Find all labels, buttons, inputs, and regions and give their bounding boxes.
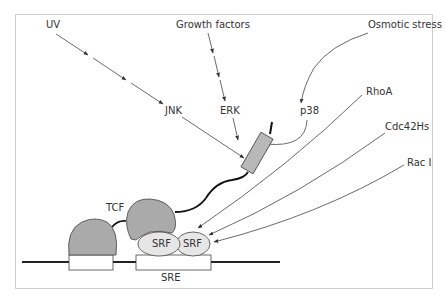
erk-to-box-arrow [233,118,238,140]
tcf-tether [175,172,248,212]
activation-domain-box [241,132,273,174]
box-top-line [270,122,272,134]
cdc42hs-to-srf-arrow [209,133,385,235]
label-srf-1: SRF [152,238,171,250]
uv-to-jnk-arrow [56,34,163,104]
label-sre: SRE [161,272,181,284]
label-rhoa: RhoA [366,86,392,98]
left-protein-blob [69,219,117,255]
growth-to-erk-arrow [208,33,225,101]
label-uv: UV [46,19,60,31]
label-osmotic-stress: Osmotic stress [368,19,442,31]
label-tcf: TCF [106,202,124,214]
tcf-left-tether [112,221,126,227]
label-srf-2: SRF [183,238,202,250]
signaling-diagram [0,0,445,304]
sre-box [136,255,211,270]
jnk-to-box-arrow [182,117,244,158]
label-jnk: JNK [165,105,182,117]
osmotic-to-p38-arrow [301,33,368,103]
label-growth-factors: Growth factors [176,19,250,31]
label-p38: p38 [300,105,319,117]
label-erk: ERK [220,105,240,117]
label-cdc42hs: Cdc42Hs [385,121,429,133]
left-dna-box [69,255,113,270]
label-rac1: Rac I [407,157,431,169]
